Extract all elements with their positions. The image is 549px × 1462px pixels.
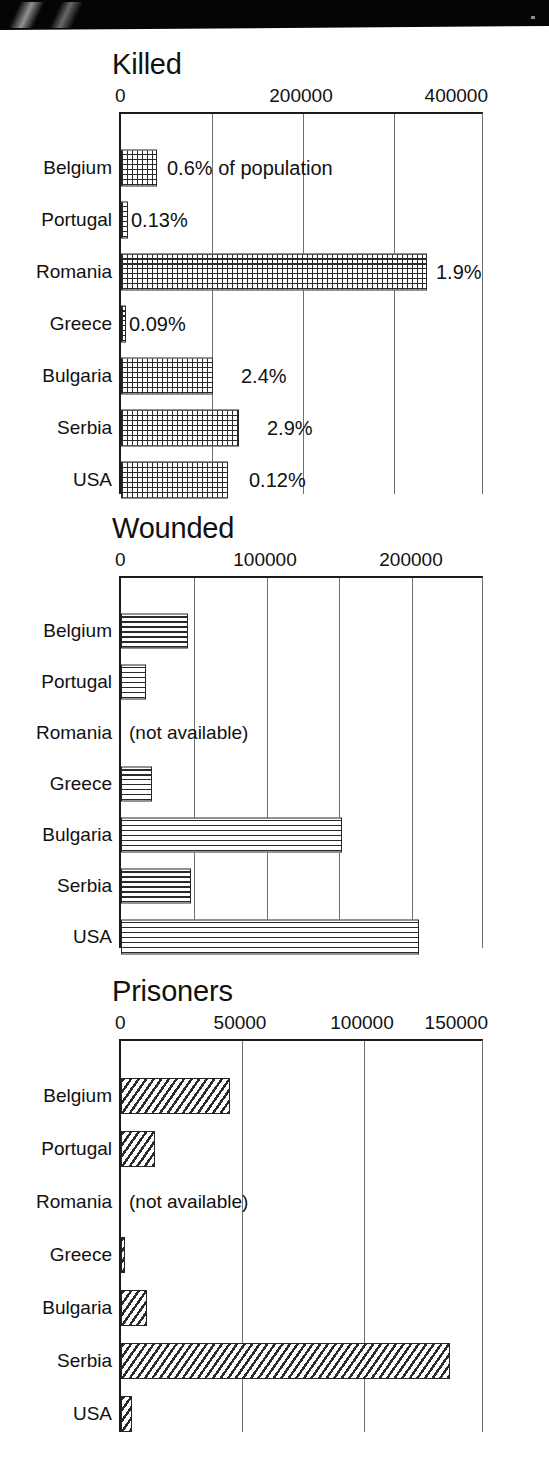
category-label: Belgium — [43, 1085, 112, 1107]
bar-row: Greece 0.09% — [121, 298, 482, 350]
bar-value-label: 0.09% — [129, 313, 186, 336]
plot-area-killed: Belgium 0.6% of population Portugal 0.13… — [119, 112, 483, 494]
bar-row: Serbia — [121, 860, 482, 911]
category-label: Bulgaria — [42, 1297, 112, 1319]
bar[interactable] — [121, 1396, 132, 1432]
x-tick-label: 100000 — [330, 1012, 393, 1034]
bar-row: Belgium 0.6% of population — [121, 142, 482, 194]
bar-row: Portugal 0.13% — [121, 194, 482, 246]
category-label: Belgium — [43, 620, 112, 642]
bar-row: Bulgaria 2.4% — [121, 350, 482, 402]
bar[interactable] — [121, 202, 128, 239]
bar[interactable] — [121, 817, 342, 852]
bar[interactable] — [121, 613, 188, 648]
category-label: Serbia — [57, 1350, 112, 1372]
bar[interactable] — [121, 766, 152, 801]
category-label: USA — [73, 1403, 112, 1425]
category-label: Romania — [36, 722, 112, 744]
category-label: Romania — [36, 261, 112, 283]
x-tick-label: 100000 — [233, 549, 296, 571]
x-tick-label: 400000 — [425, 85, 488, 107]
bar[interactable] — [121, 1131, 155, 1167]
bar-row: Bulgaria — [121, 809, 482, 860]
x-axis-tick-labels: 0 100000 200000 — [0, 549, 549, 571]
bar[interactable] — [121, 1237, 125, 1273]
bar-row: Serbia 2.9% — [121, 402, 482, 454]
bar-value-label: 2.4% — [241, 365, 287, 388]
bar[interactable] — [121, 919, 419, 954]
x-tick-label: 200000 — [379, 549, 442, 571]
bar[interactable] — [121, 1343, 450, 1379]
bar-row: USA — [121, 1387, 482, 1440]
category-label: Greece — [50, 313, 112, 335]
category-label: Bulgaria — [42, 824, 112, 846]
bar[interactable] — [121, 150, 157, 187]
bar[interactable] — [121, 358, 213, 395]
category-label: Greece — [50, 1244, 112, 1266]
category-label: Bulgaria — [42, 365, 112, 387]
bar-row: Portugal — [121, 656, 482, 707]
category-label: Belgium — [43, 157, 112, 179]
bar[interactable] — [121, 1078, 230, 1114]
category-label: Portugal — [41, 209, 112, 231]
category-label: Portugal — [41, 671, 112, 693]
x-tick-label: 0 — [115, 549, 126, 571]
bar-value-label: 0.6% of population — [167, 157, 333, 180]
bar-row: Portugal — [121, 1122, 482, 1175]
bar-row: Serbia — [121, 1334, 482, 1387]
chart-title: Prisoners — [112, 975, 233, 1008]
plot-area-prisoners: Belgium Portugal Romania (not available)… — [119, 1039, 483, 1432]
category-label: Serbia — [57, 875, 112, 897]
scan-speck — [531, 16, 535, 19]
x-tick-label: 150000 — [425, 1012, 488, 1034]
bar-row: USA — [121, 911, 482, 962]
scan-streak — [2, 2, 92, 28]
bar-row: Bulgaria — [121, 1281, 482, 1334]
x-tick-label: 50000 — [214, 1012, 267, 1034]
bar-row: Greece — [121, 758, 482, 809]
bar-value-label: 2.9% — [267, 417, 313, 440]
plot-area-wounded: Belgium Portugal Romania (not available)… — [119, 576, 483, 948]
bar-value-label: 0.13% — [131, 209, 188, 232]
x-tick-label: 0 — [115, 85, 126, 107]
bar-row: Belgium — [121, 1069, 482, 1122]
category-label: Serbia — [57, 417, 112, 439]
bar[interactable] — [121, 868, 191, 903]
bar-row: USA 0.12% — [121, 454, 482, 506]
bar[interactable] — [121, 1290, 147, 1326]
bar-row: Greece — [121, 1228, 482, 1281]
not-available-note: (not available) — [129, 722, 248, 744]
chart-title: Killed — [112, 48, 182, 81]
scan-edge-band — [0, 0, 549, 30]
x-tick-label: 0 — [115, 1012, 126, 1034]
bar[interactable] — [121, 462, 228, 499]
bar-row: Romania 1.9% — [121, 246, 482, 298]
category-label: Romania — [36, 1191, 112, 1213]
bar-row: Romania (not available) — [121, 707, 482, 758]
chart-title: Wounded — [112, 512, 234, 545]
bar[interactable] — [121, 306, 126, 343]
x-axis-tick-labels: 0 50000 100000 150000 — [0, 1012, 549, 1034]
bar-row: Belgium — [121, 605, 482, 656]
x-axis-tick-labels: 0 200000 400000 — [0, 85, 549, 107]
bar-row: Romania (not available) — [121, 1175, 482, 1228]
bar[interactable] — [121, 254, 427, 291]
bar-value-label: 1.9% — [436, 261, 482, 284]
bar[interactable] — [121, 410, 239, 447]
bar[interactable] — [121, 664, 146, 699]
category-label: USA — [73, 469, 112, 491]
x-tick-label: 200000 — [269, 85, 332, 107]
bar-value-label: 0.12% — [249, 469, 306, 492]
category-label: Portugal — [41, 1138, 112, 1160]
not-available-note: (not available) — [129, 1191, 248, 1213]
category-label: USA — [73, 926, 112, 948]
category-label: Greece — [50, 773, 112, 795]
